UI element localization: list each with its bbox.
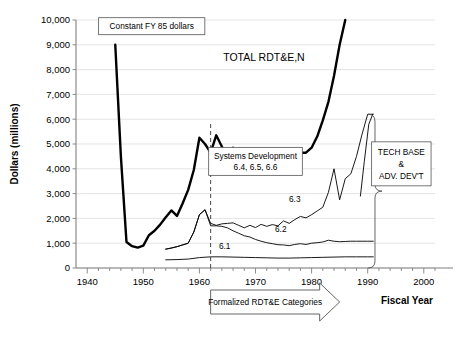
- series-line-6-3: [166, 114, 374, 249]
- total-series-label: TOTAL RDT&E,N: [223, 51, 304, 63]
- series-label-6-2: 6.2: [275, 224, 287, 234]
- systems-development-note-text-1: Systems Development: [214, 151, 298, 161]
- ytick-label-6000: 6,000: [46, 114, 70, 125]
- ytick-label-5000: 5,000: [46, 138, 70, 149]
- ytick-label-0: 0: [65, 262, 70, 273]
- systems-development-note-text-2: 6.4, 6.5, 6.6: [234, 162, 278, 172]
- x-axis-title: Fiscal Year: [381, 295, 433, 306]
- ytick-label-2000: 2,000: [46, 213, 70, 224]
- ytick-label-4000: 4,000: [46, 163, 70, 174]
- ytick-label-7000: 7,000: [46, 89, 70, 100]
- series-line-6-1: [166, 257, 374, 260]
- formalized-categories-arrow-text: Formalized RDT&E Categories: [208, 297, 322, 307]
- y-axis-title: Dollars (millions): [9, 103, 20, 184]
- tech-base-brace: [368, 114, 382, 268]
- tech-base-note-text-2: &: [399, 159, 405, 169]
- xtick-label-1940: 1940: [77, 276, 98, 287]
- tech-base-note-text-3: ADV. DEV'T: [379, 171, 424, 181]
- ytick-label-10000: 10,000: [41, 14, 70, 25]
- xtick-label-1970: 1970: [245, 276, 266, 287]
- ytick-label-3000: 3,000: [46, 188, 70, 199]
- rdte-funding-chart: 01,0002,0003,0004,0005,0006,0007,0008,00…: [0, 0, 471, 342]
- chart-canvas: 01,0002,0003,0004,0005,0006,0007,0008,00…: [0, 0, 471, 342]
- series-label-6-3: 6.3: [289, 194, 301, 204]
- xtick-label-2000: 2000: [413, 276, 434, 287]
- xtick-label-1960: 1960: [189, 276, 210, 287]
- xtick-label-1950: 1950: [133, 276, 154, 287]
- constant-dollars-note-text-1: Constant FY 85 dollars: [110, 21, 194, 31]
- ytick-label-9000: 9,000: [46, 39, 70, 50]
- ytick-label-1000: 1,000: [46, 238, 70, 249]
- xtick-label-1980: 1980: [301, 276, 322, 287]
- series-line-tech-base-spike: [360, 114, 372, 196]
- ytick-label-8000: 8,000: [46, 64, 70, 75]
- series-label-6-1: 6.1: [219, 241, 231, 251]
- xtick-label-1990: 1990: [357, 276, 378, 287]
- tech-base-note-text-1: TECH BASE: [378, 147, 425, 157]
